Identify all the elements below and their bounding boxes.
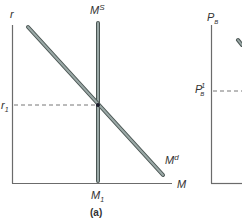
y-axis-label-r: r xyxy=(10,8,15,20)
y-axis-label-pb: PB xyxy=(207,11,218,25)
money-demand-label: Md xyxy=(165,153,179,166)
pb1-label: P1B xyxy=(195,82,205,97)
r1-label: r1 xyxy=(1,99,9,113)
m1-label: M1 xyxy=(91,189,104,203)
money-supply-label: MS xyxy=(90,3,105,16)
equilibrium-point xyxy=(96,103,100,107)
x-axis-label-m: M xyxy=(177,178,187,190)
panel-a-caption: (a) xyxy=(90,207,102,218)
money-market-diagram: r MS r1 Md M M1 (a) PB P1B xyxy=(0,0,242,221)
money-demand-curve xyxy=(28,27,163,175)
